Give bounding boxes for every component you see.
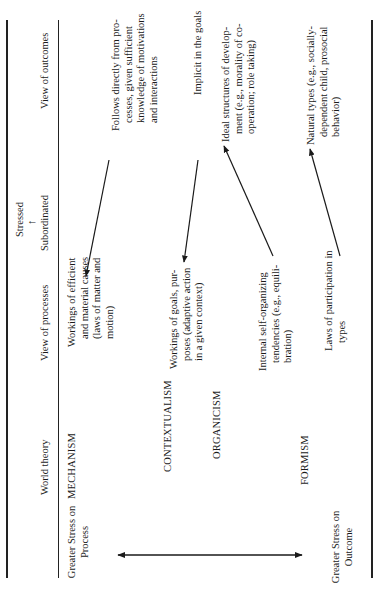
- rotated-table-page: World theory View of processes Stressed …: [0, 0, 376, 609]
- relation-arrows: [0, 0, 376, 609]
- mechanism-arrow: [86, 160, 109, 276]
- organicism-arrow: [224, 146, 273, 256]
- formism-arrow: [310, 149, 340, 256]
- contextualism-arrow: [184, 160, 198, 262]
